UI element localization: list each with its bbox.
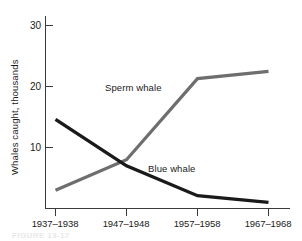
whale-catch-figure: 30 20 10 Whales caught, thousands 1937–1…: [0, 0, 302, 241]
x-tick-label-3: 1967–1968: [245, 218, 292, 229]
figure-caption: FIGURE 13-17: [12, 231, 70, 240]
y-tick-label-10: 10: [30, 142, 42, 153]
x-tick-label-0: 1937–1938: [32, 218, 79, 229]
series-line-blue-whale: [56, 119, 269, 202]
y-axis-title: Whales caught, thousands: [9, 59, 20, 175]
y-tick-label-30: 30: [30, 20, 42, 31]
x-tick-label-2: 1957–1958: [174, 218, 221, 229]
series-annotation-blue-whale: Blue whale: [148, 163, 195, 174]
x-tick-label-1: 1947–1948: [103, 218, 150, 229]
series-annotation-sperm-whale: Sperm whale: [105, 82, 162, 93]
y-tick-label-20: 20: [30, 81, 42, 92]
line-chart: 30 20 10 Whales caught, thousands 1937–1…: [0, 0, 302, 241]
